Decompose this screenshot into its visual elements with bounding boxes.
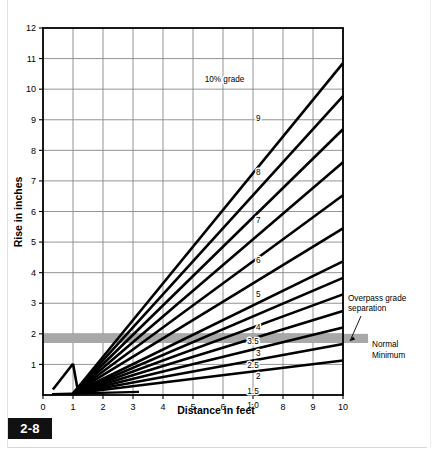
grade-lines xyxy=(52,63,343,394)
series-label: 3.5 xyxy=(247,337,259,346)
y-tick-label: 11 xyxy=(27,54,36,64)
y-tick-labels: 123456789101112 xyxy=(26,23,36,369)
series-label: 2 xyxy=(256,372,261,381)
page-bottom-rule xyxy=(7,447,427,448)
y-tick-label: 6 xyxy=(31,207,36,217)
x-tick-label: 1 xyxy=(70,402,75,412)
series-label: 10% grade xyxy=(205,75,245,84)
grade-line xyxy=(73,261,343,393)
grade-line xyxy=(73,96,343,393)
chart-annotations: Overpass gradeseparationNormalMinimum xyxy=(348,294,407,360)
x-tick-label: 2 xyxy=(100,402,105,412)
series-label: 1.5 xyxy=(247,387,259,396)
y-tick-label: 9 xyxy=(31,115,36,125)
x-tick-label: 10 xyxy=(338,402,348,412)
grade-line-baseline xyxy=(52,392,139,394)
y-tick-label: 7 xyxy=(31,176,36,186)
figure-page: 012345678910 123456789101112 10% grade10… xyxy=(0,0,434,462)
y-tick-label: 3 xyxy=(31,298,36,308)
series-label: 2.5 xyxy=(247,361,259,370)
grade-line-leader xyxy=(53,364,73,390)
y-tick-label: 12 xyxy=(26,23,36,33)
series-label: 5 xyxy=(256,290,261,299)
series-label: 7 xyxy=(256,216,261,225)
normal-minimum-line2: Minimum xyxy=(372,351,405,360)
x-axis-title: Distance in feet xyxy=(177,404,255,416)
y-tick-label: 8 xyxy=(31,146,36,156)
series-label: 9 xyxy=(256,114,261,123)
x-tick-label: 3 xyxy=(130,402,135,412)
y-tick-label: 5 xyxy=(31,237,36,247)
figure-number-badge: 2-8 xyxy=(8,418,52,439)
x-tick-label: 4 xyxy=(160,402,165,412)
overpass-grade-separation-line2: separation xyxy=(348,304,387,313)
x-tick-label: 0 xyxy=(40,402,45,412)
grade-line xyxy=(73,129,343,393)
normal-minimum-band-rect xyxy=(43,334,368,343)
x-tick-label: 9 xyxy=(310,402,315,412)
series-label: 8 xyxy=(256,168,261,177)
normal-minimum-line1: Normal xyxy=(372,340,399,349)
y-tick-label: 1 xyxy=(31,360,36,370)
x-tick-label: 8 xyxy=(280,402,285,412)
series-label: 6 xyxy=(256,256,261,265)
normal-minimum-band xyxy=(43,334,368,343)
y-tick-label: 10 xyxy=(26,84,36,94)
overpass-grade-separation-line1: Overpass grade xyxy=(348,294,407,303)
y-tick-label: 2 xyxy=(31,329,36,339)
grade-chart: 012345678910 123456789101112 10% grade10… xyxy=(0,0,434,420)
series-label: 4 xyxy=(256,323,261,332)
chart-svg: 012345678910 123456789101112 10% grade10… xyxy=(0,0,434,420)
grade-line xyxy=(73,162,343,393)
series-label: 3 xyxy=(256,349,261,358)
y-axis-title: Rise in inches xyxy=(12,177,24,248)
y-tick-label: 4 xyxy=(31,268,36,278)
